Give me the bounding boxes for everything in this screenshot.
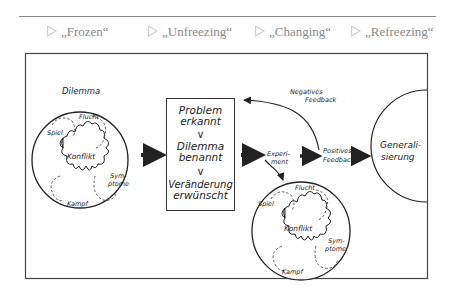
generalisierung-label-1: Generali-	[380, 140, 421, 150]
positive-feedback-label-1: Positives	[323, 147, 352, 155]
step-dilemma-line2: benannt	[167, 152, 234, 163]
symptome-label-2: ptome	[107, 180, 129, 188]
kampf-label: Kampf	[67, 200, 89, 208]
symptome-label-2: ptome	[324, 245, 346, 253]
positive-feedback-label-2: Feedback	[323, 156, 355, 164]
step-problem-line2: erkannt	[167, 116, 234, 127]
symptome-label-1: Sym-	[110, 172, 127, 180]
dilemma-label: Dilemma	[62, 86, 100, 96]
chevron-down-icon: ∨	[167, 167, 234, 177]
negative-feedback-arrow	[244, 100, 319, 150]
kampf-label: Kampf	[282, 268, 304, 276]
flucht-label: Flucht	[295, 184, 315, 192]
konflikt-label: Konflikt	[284, 224, 313, 233]
process-box: Problem erkannt ∨ Dilemma benannt ∨ Verä…	[166, 98, 235, 211]
step-change-line2: erwünscht	[167, 190, 234, 201]
symptome-label-1: Sym-	[328, 237, 345, 245]
konflikt-label: Konflikt	[67, 152, 96, 161]
spiel-label: Spiel	[258, 200, 274, 208]
flucht-label: Flucht	[79, 113, 99, 121]
spiel-label: Spiel	[47, 129, 63, 137]
experiment-label-2: ment	[271, 158, 288, 166]
experiment-label-1: Experi-	[267, 150, 291, 158]
negative-feedback-label-2: Feedback	[305, 96, 337, 104]
chevron-down-icon: ∨	[167, 130, 234, 140]
negative-feedback-label-1: Negatives	[290, 88, 323, 96]
generalisierung-label-2: sierung	[381, 152, 415, 162]
